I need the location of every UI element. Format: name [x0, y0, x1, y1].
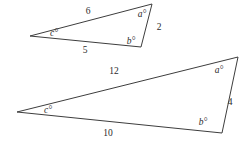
geometry-figure: 6 5 2 a° b° c° 12 10 4 a° b° c° — [0, 0, 249, 149]
large-triangle-angle-c-label: c° — [44, 105, 52, 115]
small-triangle: 6 5 2 a° b° c° — [30, 4, 162, 55]
small-triangle-angle-c-label: c° — [50, 28, 58, 38]
small-triangle-side-right-label: 2 — [157, 22, 162, 32]
large-triangle: 12 10 4 a° b° c° — [17, 57, 238, 138]
small-triangle-side-top-label: 6 — [86, 6, 91, 16]
small-triangle-angle-a-label: a° — [138, 9, 147, 19]
small-triangle-side-bottom-label: 5 — [83, 45, 88, 55]
large-triangle-angle-a-label: a° — [215, 65, 224, 75]
large-triangle-side-right-label: 4 — [228, 97, 233, 107]
small-triangle-angle-b-label: b° — [127, 36, 136, 46]
large-triangle-side-bottom-label: 10 — [103, 128, 113, 138]
large-triangle-side-top-label: 12 — [109, 66, 119, 76]
large-triangle-angle-b-label: b° — [199, 117, 208, 127]
